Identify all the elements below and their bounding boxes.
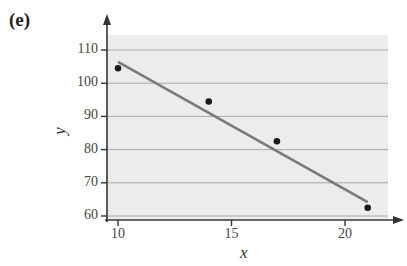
y-tick-label: 80 — [68, 141, 98, 157]
y-tick-label: 60 — [68, 207, 98, 223]
y-tick-label: 90 — [68, 107, 98, 123]
data-point — [206, 98, 213, 105]
x-tick-label: 20 — [330, 226, 360, 242]
y-axis-arrow-icon — [103, 14, 111, 25]
x-tick-label: 10 — [103, 226, 133, 242]
y-axis-title: y — [50, 127, 70, 135]
x-tick-label: 15 — [217, 226, 247, 242]
y-axis-ticks — [101, 50, 107, 216]
y-tick-label: 70 — [68, 174, 98, 190]
y-tick-label: 100 — [68, 74, 98, 90]
data-point — [115, 65, 122, 72]
plot-background — [108, 35, 388, 219]
x-axis-title: x — [240, 243, 248, 263]
data-point — [274, 138, 281, 145]
x-axis-arrow-icon — [393, 216, 404, 224]
data-point — [364, 204, 371, 211]
y-tick-label: 110 — [68, 41, 98, 57]
